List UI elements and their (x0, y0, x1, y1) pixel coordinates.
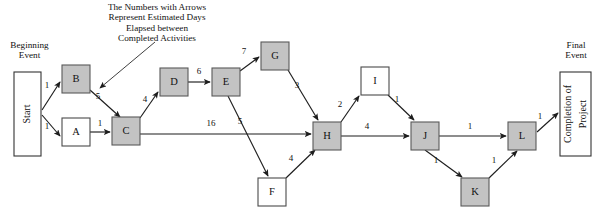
node-Start[interactable]: Start (14, 72, 41, 156)
edge-label: 1 (492, 155, 497, 165)
diagram-canvas: 1151467316542141111 StartBACDEGFHIJKLCom… (0, 0, 596, 212)
node-label-line-2: Project (577, 100, 588, 129)
edge-line (425, 150, 462, 177)
node-D[interactable]: D (160, 68, 188, 96)
edge-Start-to-B: 1 (42, 80, 60, 110)
node-End[interactable]: Completion ofProject (560, 72, 591, 156)
node-K[interactable]: K (461, 178, 489, 206)
node-G[interactable]: G (261, 42, 289, 70)
edge-L-to-End: 1 (537, 111, 558, 132)
edge-B-to-C: 5 (90, 90, 120, 117)
node-label: F (269, 186, 275, 197)
edge-line (90, 90, 120, 117)
edge-label: 16 (207, 118, 217, 128)
edge-H-to-I: 2 (338, 96, 359, 122)
edge-E-to-F: 5 (228, 96, 268, 176)
node-label: C (122, 125, 129, 136)
edge-line (288, 70, 318, 120)
edge-E-to-G: 7 (240, 46, 259, 71)
edge-line (228, 96, 268, 176)
annotation-leader-line (100, 42, 155, 88)
edge-G-to-H: 3 (288, 70, 318, 120)
edge-label: 4 (143, 94, 148, 104)
node-E[interactable]: E (212, 68, 240, 96)
node-label: H (323, 130, 331, 141)
node-L[interactable]: L (508, 122, 536, 150)
node-label: I (373, 75, 377, 86)
edge-A-to-C: 1 (90, 118, 110, 132)
edge-label: 1 (538, 111, 543, 121)
node-H[interactable]: H (313, 122, 341, 150)
node-label: D (170, 76, 178, 87)
node-J[interactable]: J (411, 122, 439, 150)
edge-label: 1 (434, 155, 439, 165)
node-label: L (519, 130, 525, 141)
node-label: Start (21, 104, 32, 123)
edge-label: 4 (289, 153, 294, 163)
node-label: E (223, 76, 229, 87)
edge-label: 6 (197, 66, 202, 76)
edge-label: 3 (295, 80, 300, 90)
annotation-leader-layer (100, 42, 155, 88)
edge-label: 7 (242, 46, 247, 56)
node-B[interactable]: B (62, 65, 90, 93)
edge-label: 1 (45, 121, 50, 131)
edge-D-to-E: 6 (188, 66, 210, 82)
edge-label: 5 (96, 91, 101, 101)
node-label: B (72, 73, 79, 84)
edge-label: 1 (98, 118, 103, 128)
edge-label: 1 (395, 94, 400, 104)
edge-K-to-L: 1 (489, 151, 517, 178)
node-I[interactable]: I (361, 67, 389, 95)
edge-line (240, 57, 259, 71)
edge-F-to-H: 4 (286, 150, 315, 178)
edge-line (341, 96, 359, 122)
node-label: A (72, 126, 80, 137)
node-label: Completion of (562, 84, 573, 143)
node-label: J (423, 130, 427, 141)
node-A[interactable]: A (62, 118, 90, 146)
edge-label: 4 (365, 121, 370, 131)
edge-label: 2 (338, 99, 343, 109)
node-label: K (471, 186, 479, 197)
edge-line (388, 95, 414, 120)
edge-label: 5 (238, 116, 243, 126)
edge-C-to-H: 16 (140, 118, 311, 134)
edge-J-to-L: 1 (439, 121, 506, 136)
edge-Start-to-A: 1 (42, 115, 60, 136)
edge-label: 1 (468, 121, 473, 131)
edge-C-to-D: 4 (140, 92, 158, 118)
edge-H-to-J: 4 (341, 121, 409, 136)
node-label: G (271, 50, 279, 61)
edge-J-to-K: 1 (425, 150, 462, 177)
edges-layer: 1151467316542141111 (42, 46, 558, 178)
edge-I-to-J: 1 (388, 94, 414, 120)
edge-label: 1 (45, 80, 50, 90)
node-F[interactable]: F (258, 178, 286, 206)
node-C[interactable]: C (112, 117, 140, 145)
